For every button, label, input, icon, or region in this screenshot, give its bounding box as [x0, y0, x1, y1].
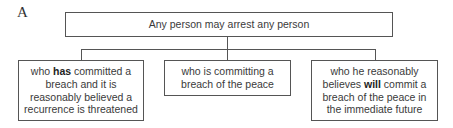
root-node: Any person may arrest any person	[65, 12, 393, 37]
figure-label: A	[17, 4, 28, 21]
child-node-text: who he reasonably believes will commit a…	[314, 65, 435, 115]
connector-middle-down	[227, 49, 228, 60]
child-node-will-commit: who he reasonably believes will commit a…	[311, 60, 438, 121]
emphasis-will: will	[364, 78, 381, 90]
child-node-text: who has committed a breach and it is rea…	[22, 65, 140, 115]
connector-right-down	[375, 49, 376, 60]
child-node-has-committed: who has committed a breach and it is rea…	[18, 60, 144, 121]
child-node-is-committing: who is committing a breach of the peace	[164, 60, 291, 96]
emphasis-has: has	[53, 65, 71, 77]
connector-left-down	[81, 49, 82, 60]
root-node-text: Any person may arrest any person	[149, 18, 310, 31]
connector-root-down	[227, 37, 228, 49]
child-node-text: who is committing a breach of the peace	[171, 65, 284, 90]
connector-horizontal	[81, 49, 376, 50]
